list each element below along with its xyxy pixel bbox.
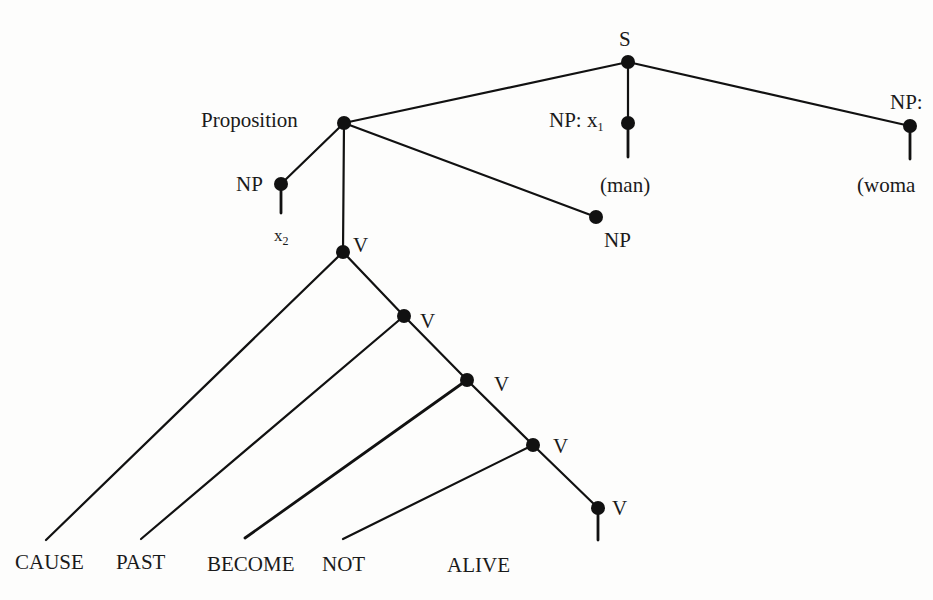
label-np-x2: NP (236, 174, 263, 195)
node-np-mid (589, 210, 603, 224)
node-np-right (903, 119, 917, 133)
edge-proposition-np-mid (344, 123, 596, 217)
label-x2-text: x (274, 226, 283, 245)
label-v1: V (353, 235, 368, 256)
label-man: (man) (600, 175, 650, 196)
tree-edges (0, 0, 933, 600)
edge-v4-not (343, 445, 533, 539)
leaf-not: NOT (322, 554, 365, 575)
label-v3: V (494, 374, 509, 395)
leaf-alive: ALIVE (447, 555, 510, 576)
label-x2: x2 (274, 227, 289, 247)
edge-v1-v2 (343, 252, 404, 316)
node-v3 (460, 373, 474, 387)
label-v5: V (612, 498, 627, 519)
node-v1 (336, 245, 350, 259)
label-np-right: NP: (890, 92, 923, 113)
label-woman-clipped: (woma (857, 175, 915, 196)
leaf-cause: CAUSE (15, 552, 84, 573)
edge-proposition-v1 (343, 123, 344, 252)
label-proposition: Proposition (201, 110, 298, 131)
edge-s-np-right (628, 62, 910, 126)
label-x2-subscript: 2 (283, 234, 289, 248)
label-np-mid: NP (604, 230, 631, 251)
node-v4 (526, 438, 540, 452)
edge-v2-past (141, 316, 404, 539)
label-v2: V (420, 311, 435, 332)
label-np-x1: NP: x1 (549, 110, 603, 133)
edge-v3-become (245, 380, 467, 538)
label-v4: V (553, 436, 568, 457)
label-s: S (619, 29, 631, 50)
node-s (621, 55, 635, 69)
syntax-tree-diagram: S Proposition NP: x1 (man) NP: (woma NP … (0, 0, 933, 600)
label-np-x1-text: NP: x (549, 108, 597, 132)
leaf-become: BECOME (207, 554, 295, 575)
edge-v2-v3 (404, 316, 467, 380)
node-v5 (591, 501, 605, 515)
leaf-past: PAST (116, 552, 165, 573)
edge-v1-cause (46, 252, 343, 540)
node-np-x2 (274, 177, 288, 191)
node-proposition (337, 116, 351, 130)
node-np-x1 (621, 116, 635, 130)
edge-proposition-np-x2 (281, 123, 344, 184)
node-v2 (397, 309, 411, 323)
label-np-x1-subscript: 1 (597, 120, 603, 134)
